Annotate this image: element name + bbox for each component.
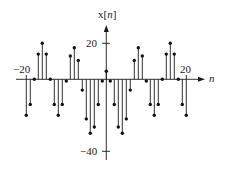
stem-marker — [33, 78, 36, 81]
stem-marker — [65, 79, 68, 82]
stem-marker — [41, 42, 44, 45]
y-axis-label-close: ] — [113, 8, 117, 20]
stem-marker — [149, 103, 152, 106]
x-axis-label: n — [209, 73, 215, 84]
stem-marker — [109, 79, 112, 82]
stem-marker — [25, 114, 28, 117]
stem-marker — [113, 103, 116, 106]
stem-marker — [117, 125, 120, 128]
stem-marker — [89, 132, 92, 135]
y-axis-label-text: x[ — [98, 8, 107, 20]
x-tick-label-20: 20 — [180, 64, 191, 75]
axes — [16, 30, 200, 160]
stem-marker — [37, 52, 40, 55]
stem-marker — [93, 125, 96, 128]
stem-marker — [29, 103, 32, 106]
stem-marker — [125, 117, 128, 120]
stem-plot — [0, 0, 233, 172]
stem-marker — [69, 54, 72, 57]
stem-marker — [81, 88, 84, 91]
stem-marker — [177, 78, 180, 81]
x-axis-arrow-icon — [198, 77, 205, 82]
stem-marker — [77, 59, 80, 62]
y-tick-label-20: 20 — [86, 38, 97, 49]
y-tick-label-neg40: −40 — [80, 146, 97, 157]
stem-marker — [169, 42, 172, 45]
stem-marker — [61, 103, 64, 106]
stem-marker — [129, 88, 132, 91]
y-axis-arrow-icon — [104, 25, 109, 32]
x-tick-label-neg20: −20 — [13, 64, 30, 75]
stem-marker — [45, 52, 48, 55]
stem-marker — [173, 52, 176, 55]
stem-marker — [165, 52, 168, 55]
stem-marker — [105, 70, 108, 73]
y-axis-label: x[n] — [98, 9, 116, 20]
stem-marker — [153, 114, 156, 117]
stem-marker — [121, 132, 124, 135]
stem-marker — [49, 78, 52, 81]
stem-marker — [145, 79, 148, 82]
stem-marker — [101, 79, 104, 82]
stem-marker — [57, 114, 60, 117]
stem-marker — [73, 46, 76, 49]
stem-marker — [141, 54, 144, 57]
stem-marker — [53, 103, 56, 106]
stem-marker — [181, 103, 184, 106]
stem-marker — [161, 78, 164, 81]
stem-marker — [85, 117, 88, 120]
stem-marker — [97, 103, 100, 106]
stem-marker — [133, 59, 136, 62]
stem-marker — [185, 114, 188, 117]
stem-marker — [157, 103, 160, 106]
stem-marker — [137, 46, 140, 49]
